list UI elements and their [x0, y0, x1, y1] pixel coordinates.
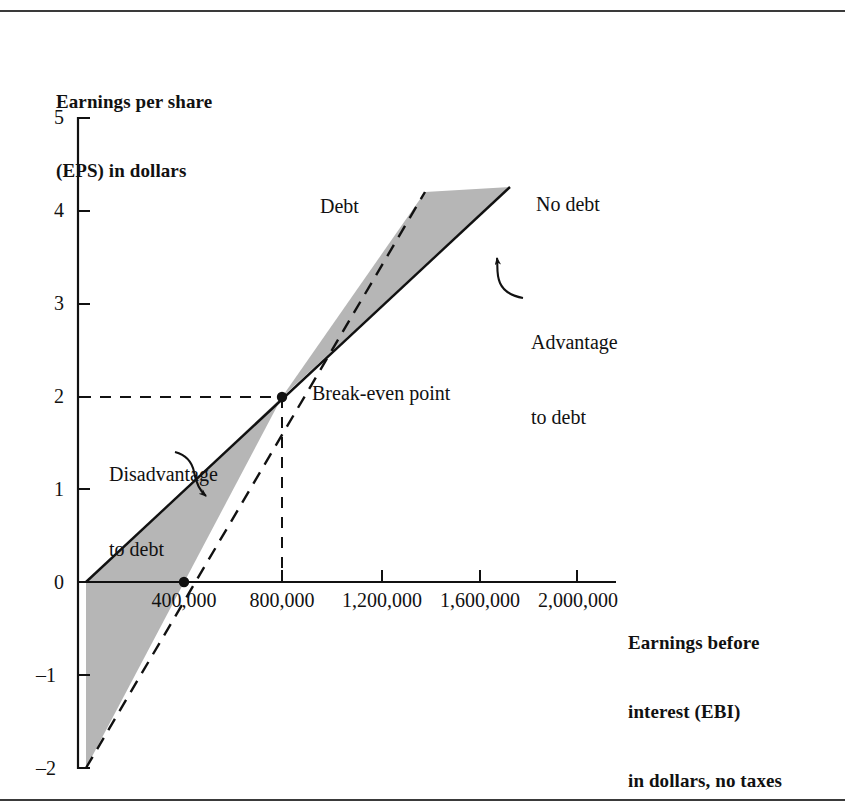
advantage-to-debt-label: Advantage to debt — [531, 280, 618, 480]
x-axis-title-line3: in dollars, no taxes — [628, 769, 782, 792]
debt-line-label: Debt — [320, 194, 359, 219]
x-tick-label-800000: 800,000 — [238, 589, 326, 611]
y-tick-label-2: 2 — [30, 385, 64, 407]
no-debt-line-label: No debt — [536, 192, 600, 217]
advantage-to-debt-arrow — [497, 258, 523, 298]
x-tick-label-1600000: 1,600,000 — [428, 589, 532, 611]
x-axis-title: Earnings before interest (EBI) in dollar… — [628, 585, 782, 809]
break-even-label: Break-even point — [312, 381, 450, 406]
y-axis-title-line2: (EPS) in dollars — [56, 159, 212, 182]
y-tick-label-5: 5 — [30, 106, 64, 128]
y-tick-label-4: 4 — [30, 199, 64, 221]
disadvantage-to-debt-label-line2: to debt — [109, 537, 218, 562]
disadvantage-to-debt-label: Disadvantage to debt — [109, 412, 218, 612]
advantage-to-debt-label-line1: Advantage — [531, 330, 618, 355]
y-tick-label-3: 3 — [30, 292, 64, 314]
advantage-to-debt-label-line2: to debt — [531, 405, 618, 430]
x-tick-label-1200000: 1,200,000 — [330, 589, 434, 611]
break-even-point-marker — [277, 392, 287, 402]
x-axis-ticks — [282, 570, 577, 582]
y-axis-title-line1: Earnings per share — [56, 90, 212, 113]
x-axis-title-line2: interest (EBI) — [628, 700, 782, 723]
x-tick-label-2000000: 2,000,000 — [526, 589, 630, 611]
y-tick-label-neg-2: –2 — [22, 757, 56, 779]
x-axis-title-line1: Earnings before — [628, 631, 782, 654]
y-axis-title: Earnings per share (EPS) in dollars — [56, 44, 212, 228]
y-tick-label-neg-1: –1 — [22, 664, 56, 686]
y-tick-label-1: 1 — [30, 478, 64, 500]
figure-canvas: Earnings per share (EPS) in dollars Earn… — [0, 0, 845, 809]
y-tick-label-0: 0 — [30, 571, 64, 593]
disadvantage-to-debt-label-line1: Disadvantage — [109, 462, 218, 487]
